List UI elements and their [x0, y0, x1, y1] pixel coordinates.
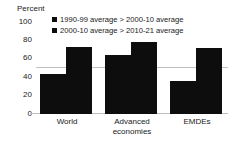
y-tick-0: 0 [28, 110, 32, 118]
x-label-world: World [36, 117, 98, 127]
chart-legend: 1990-99 average > 2000-10 average 2000-1… [52, 14, 184, 36]
legend-item-1: 1990-99 average > 2000-10 average [52, 14, 184, 24]
y-tick-40: 40 [23, 73, 32, 81]
x-label-emdes: EMDEs [166, 117, 228, 127]
y-tick-80: 80 [23, 36, 32, 44]
x-axis-category-labels: World Advanced economies EMDEs [36, 117, 228, 147]
bar-world-series2 [66, 47, 92, 114]
y-tick-60: 60 [23, 54, 32, 62]
bar-emdes-series1 [170, 81, 196, 114]
x-label-advanced-economies: Advanced economies [101, 117, 163, 137]
legend-item-2: 2000-10 average > 2010-21 average [52, 25, 184, 35]
legend-item-2-label: 2000-10 average > 2010-21 average [60, 26, 184, 35]
y-axis-title: Percent [17, 4, 45, 13]
legend-item-1-label: 1990-99 average > 2000-10 average [60, 15, 184, 24]
bar-advanced-series1 [105, 55, 131, 114]
bar-advanced-series2 [131, 42, 157, 114]
y-tick-100: 100 [19, 18, 32, 26]
bar-world-series1 [40, 74, 66, 114]
x-label-advanced-line1: Advanced [101, 117, 163, 127]
y-axis-tick-labels: 100 80 60 40 20 0 [0, 22, 32, 114]
bar-chart: Percent 100 80 60 40 20 0 199 [0, 0, 234, 150]
square-marker-icon [52, 17, 57, 22]
x-label-advanced-line2: economies [101, 127, 163, 137]
y-tick-20: 20 [23, 91, 32, 99]
square-marker-icon [52, 28, 57, 33]
x-label-emdes-text: EMDEs [166, 117, 228, 127]
bar-emdes-series2 [196, 48, 222, 114]
x-label-world-text: World [36, 117, 98, 127]
